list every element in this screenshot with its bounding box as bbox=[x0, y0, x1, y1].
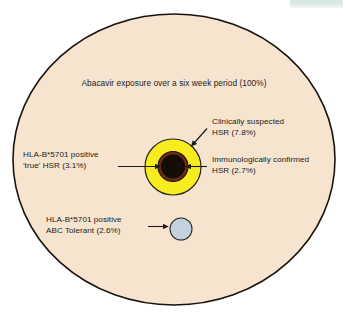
abc-tolerant-circle bbox=[170, 218, 192, 240]
abc-tolerant-label-line1: HLA-B*5701 positive bbox=[46, 215, 122, 224]
hla-true-hsr-label-line2: 'true' HSR (3.1%) bbox=[23, 161, 87, 170]
clinically-suspected-hsr-label-line1: Clinically suspected bbox=[212, 117, 284, 126]
immunologically-confirmed-hsr-label-line2: HSR (2.7%) bbox=[212, 166, 256, 175]
clinically-suspected-hsr-label-line2: HSR (7.8%) bbox=[212, 128, 256, 137]
abc-tolerant-label-line2: ABC Tolerant (2.6%) bbox=[46, 226, 121, 235]
immunologically-confirmed-hsr-circle bbox=[161, 155, 184, 178]
figure-root: Abacavir exposure over a six week period… bbox=[0, 0, 348, 318]
hla-true-hsr-label-line1: HLA-B*5701 positive bbox=[23, 150, 99, 159]
outer-population-label: Abacavir exposure over a six week period… bbox=[82, 78, 267, 88]
abacavir-hsr-venn-diagram: Abacavir exposure over a six week period… bbox=[0, 0, 348, 318]
immunologically-confirmed-hsr-label-line1: Immunologically confirmed bbox=[212, 155, 309, 164]
